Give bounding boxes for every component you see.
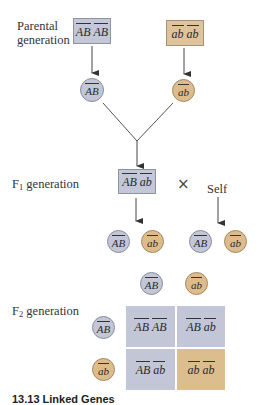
punnett-row-header-dominant: AB [92,316,115,339]
chromosome: ab [230,235,241,249]
f2-generation-label: F2 generation [12,304,79,318]
f1-generation-label: F1 generation [12,177,79,191]
f1-gamete-dominant-2: AB [189,230,212,253]
parental-gamete-recessive: ab [172,79,195,102]
parental-gamete-dominant: AB [80,78,104,102]
chromosome: AB [122,173,137,190]
chromosome: AB [145,277,158,291]
chromosome: ab [147,235,158,249]
chromosome: AB [194,235,207,249]
punnett-cell-r2c1: AB ab [126,349,175,390]
chromosome: AB [97,321,110,335]
chromosome: ab [204,318,216,335]
f1-label-prefix: F [12,177,19,191]
parental-left-genotype-box: AB AB [73,18,111,44]
chromosome: AB [94,23,109,40]
chromosome: ab [203,361,215,378]
chromosome: AB [152,318,167,335]
f1-gamete-recessive-1: ab [141,230,164,253]
chromosome: ab [187,25,199,42]
f1-gamete-dominant-1: AB [107,230,130,253]
chromosome: ab [178,84,189,98]
punnett-cell-r1c2: AB ab [177,306,225,347]
chromosome: ab [140,173,152,190]
punnett-cell-r1c1: AB AB [126,306,175,347]
chromosome: AB [76,23,91,40]
chromosome: ab [172,25,184,42]
parental-generation-label: Parental generation [17,19,70,47]
parental-right-genotype-box: ab ab [166,20,204,46]
chromosome: AB [186,318,201,335]
punnett-row-header-recessive: ab [92,358,115,381]
chromosome: ab [153,361,165,378]
chromosome: AB [136,361,151,378]
self-label: Self [207,182,227,196]
chromosome: AB [134,318,149,335]
chromosome: ab [191,277,202,291]
figure-caption: 13.13 Linked Genes [12,393,115,405]
punnett-cell-r2c2: ab ab [177,349,225,390]
chromosome: AB [112,235,125,249]
f1-gamete-recessive-2: ab [224,230,247,253]
parental-label-line2: generation [17,33,70,47]
f2-label-prefix: F [12,304,19,318]
parental-label-line1: Parental [17,19,70,33]
f1-genotype-box: AB ab [118,169,156,194]
punnett-column-header-dominant: AB [140,272,163,295]
chromosome: ab [188,361,200,378]
cross-symbol: × [177,175,190,193]
punnett-column-header-recessive: ab [185,272,208,295]
f2-label-suffix: generation [23,304,79,318]
chromosome: AB [85,83,98,97]
chromosome: ab [98,363,109,377]
f1-label-suffix: generation [23,177,79,191]
